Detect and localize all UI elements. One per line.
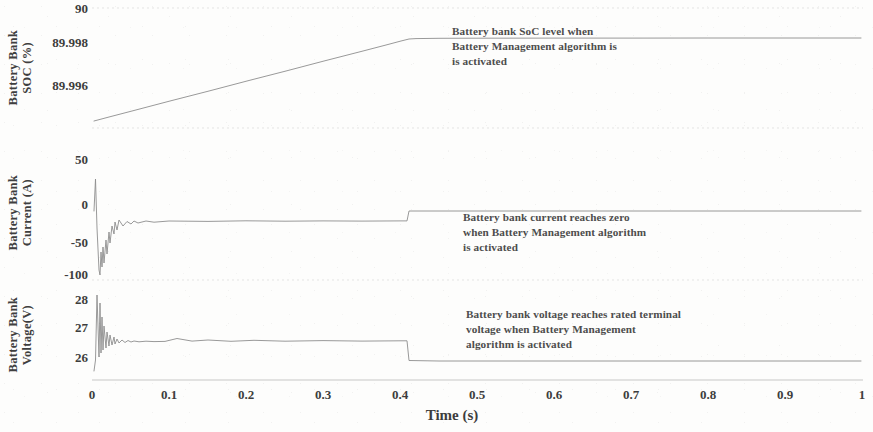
soc-annotation-line1: Battery bank SoC level when (452, 24, 617, 39)
voltage-annotation-line3: algorithm is activated (466, 337, 681, 352)
current-panel: Battery Bank Current (A) 50 0 -50 -100 B… (0, 140, 873, 285)
voltage-y-axis-label-line1: Battery Bank (7, 297, 20, 372)
xtick-0-6: 0.6 (526, 387, 582, 403)
xtick-0-4: 0.4 (372, 387, 428, 403)
current-ytick-0: 0 (24, 197, 88, 213)
soc-ytick-89998: 89.998 (24, 35, 88, 51)
current-ytick-m100: -100 (18, 267, 88, 283)
xtick-0-1: 0.1 (141, 387, 197, 403)
voltage-panel: Battery Bank Voltage(V) 28 27 26 Battery… (0, 285, 873, 385)
xtick-0-9: 0.9 (757, 387, 813, 403)
soc-annotation: Battery bank SoC level when Battery Mana… (452, 24, 617, 69)
voltage-annotation: Battery bank voltage reaches rated termi… (466, 307, 681, 352)
current-ytick-50: 50 (24, 152, 88, 168)
x-axis-title: Time (s) (392, 407, 512, 424)
voltage-ytick-27: 27 (24, 320, 88, 336)
soc-annotation-line3: is activated (452, 54, 617, 69)
current-annotation-line3: is activated (463, 240, 646, 255)
soc-panel: Battery Bank SOC (%) 90 89.998 89.996 Ba… (0, 0, 873, 140)
xtick-1: 1 (834, 387, 873, 403)
current-ytick-m50: -50 (24, 235, 88, 251)
xtick-0-3: 0.3 (295, 387, 351, 403)
soc-y-axis-label-line1: Battery Bank (7, 30, 20, 105)
voltage-ytick-28: 28 (24, 292, 88, 308)
xtick-0-8: 0.8 (680, 387, 736, 403)
xtick-0-5: 0.5 (449, 387, 505, 403)
soc-y-axis-label: Battery Bank SOC (%) (2, 4, 38, 132)
xtick-0-7: 0.7 (603, 387, 659, 403)
current-annotation-line2: when Battery Management algorithm (463, 225, 646, 240)
xtick-0: 0 (64, 387, 120, 403)
voltage-annotation-line1: Battery bank voltage reaches rated termi… (466, 307, 681, 322)
current-y-axis-label-line1: Battery Bank (7, 175, 20, 250)
current-annotation: Battery bank current reaches zero when B… (463, 210, 646, 255)
soc-ytick-90: 90 (24, 1, 88, 17)
soc-ytick-89996: 89.996 (24, 78, 88, 94)
voltage-ytick-26: 26 (24, 350, 88, 366)
battery-bank-results-figure: Battery Bank SOC (%) 90 89.998 89.996 Ba… (0, 0, 873, 432)
xtick-0-2: 0.2 (218, 387, 274, 403)
current-annotation-line1: Battery bank current reaches zero (463, 210, 646, 225)
soc-annotation-line2: Battery Management algorithm is (452, 39, 617, 54)
voltage-annotation-line2: voltage when Battery Management (466, 322, 681, 337)
